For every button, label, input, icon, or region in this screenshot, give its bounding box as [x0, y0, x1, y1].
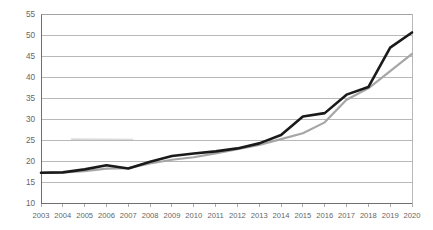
chart-background: [0, 0, 433, 230]
chart-canvas: 10152025303540455055 2003200420052006200…: [0, 0, 433, 230]
x-axis-tick-label: 2005: [76, 211, 93, 220]
y-axis-tick-label: 40: [26, 73, 36, 82]
y-axis-tick-label: 45: [26, 52, 36, 61]
x-axis-tick-label: 2011: [207, 211, 223, 220]
x-axis-tick-label: 2016: [316, 211, 333, 220]
y-axis-tick-label: 25: [26, 136, 36, 145]
y-axis-tick-label: 15: [26, 178, 36, 187]
x-axis-tick-label: 2008: [142, 211, 159, 220]
x-axis-tick-label: 2017: [338, 211, 355, 220]
x-axis-tick-label: 2020: [404, 211, 421, 220]
x-axis-tick-label: 2014: [273, 211, 290, 220]
y-axis-tick-label: 35: [26, 94, 36, 103]
y-axis-tick-label: 30: [26, 115, 36, 124]
y-axis-tick-label: 20: [26, 157, 36, 166]
x-axis-tick-label: 2006: [98, 211, 115, 220]
x-axis-tick-label: 2012: [229, 211, 246, 220]
y-axis-tick-label: 10: [26, 199, 36, 208]
x-axis-tick-label: 2015: [294, 211, 311, 220]
x-axis-tick-label: 2018: [360, 211, 377, 220]
x-axis-tick-label: 2003: [33, 211, 50, 220]
x-axis-tick-label: 2013: [251, 211, 268, 220]
x-axis-tick-label: 2010: [185, 211, 202, 220]
x-axis-tick-label: 2009: [163, 211, 180, 220]
x-axis-tick-label: 2007: [120, 211, 137, 220]
line-chart: 10152025303540455055 2003200420052006200…: [0, 0, 433, 230]
x-axis-tick-label: 2004: [54, 211, 71, 220]
x-axis-tick-label: 2019: [382, 211, 399, 220]
y-axis-tick-label: 50: [26, 31, 36, 40]
y-axis-tick-label: 55: [26, 10, 36, 19]
